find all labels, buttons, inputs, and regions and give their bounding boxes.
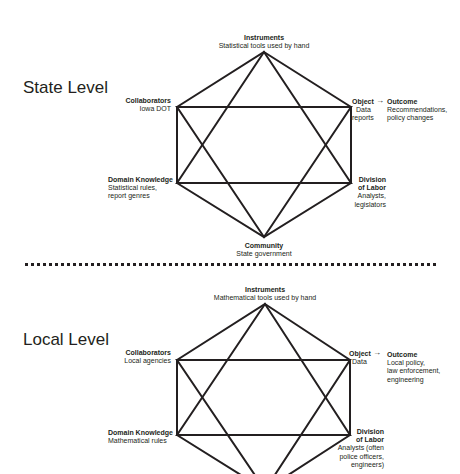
node-desc: reports	[352, 114, 374, 122]
node-desc: Mathematical rules	[108, 437, 173, 445]
node-desc: Statistical rules,	[108, 184, 173, 192]
node-desc: Statistical tools used by hand	[219, 42, 310, 50]
state-community-node: Community State government	[236, 242, 291, 258]
local-collaborators-node: Collaborators Local agencies	[124, 349, 171, 365]
node-desc: police officers,	[338, 453, 384, 461]
node-label: Object	[352, 98, 374, 106]
local-level-hexagram	[177, 304, 350, 474]
node-label: Outcome	[387, 351, 440, 359]
node-desc: Analysts,	[354, 192, 386, 200]
node-label: Division	[338, 428, 384, 436]
node-label: Community	[236, 242, 291, 250]
node-desc: Recommendations,	[387, 106, 447, 114]
node-desc: Data	[349, 358, 371, 366]
state-level-hexagram	[177, 52, 351, 237]
node-label: Instruments	[214, 286, 316, 294]
node-label: Instruments	[219, 34, 310, 42]
node-desc: Data	[352, 106, 374, 114]
node-desc: Local policy,	[387, 359, 440, 367]
node-desc: engineering	[387, 376, 440, 384]
node-label: Collaborators	[124, 349, 171, 357]
node-label: Domain Knowledge	[108, 429, 173, 437]
activity-system-graphs	[0, 0, 460, 474]
state-object-node: Object Data reports	[352, 98, 374, 123]
state-division-of-labor-node: Division of Labor Analysts, legislators	[354, 176, 386, 209]
section-divider	[25, 263, 437, 266]
node-label: Outcome	[387, 98, 447, 106]
local-division-of-labor-node: Division of Labor Analysts (often police…	[338, 428, 384, 469]
node-desc: State government	[236, 250, 291, 258]
state-instruments-node: Instruments Statistical tools used by ha…	[219, 34, 310, 50]
node-desc: Local agencies	[124, 357, 171, 365]
local-object-node: Object Data	[349, 350, 371, 366]
node-desc: engineers)	[338, 461, 384, 469]
local-instruments-node: Instruments Mathematical tools used by h…	[214, 286, 316, 302]
node-desc: legislators	[354, 201, 386, 209]
state-domain-knowledge-node: Domain Knowledge Statistical rules, repo…	[108, 176, 173, 201]
local-arrow-icon: →	[373, 349, 381, 357]
state-arrow-icon: →	[376, 97, 384, 105]
node-label: of Labor	[354, 184, 386, 192]
node-desc: Mathematical tools used by hand	[214, 294, 316, 302]
local-domain-knowledge-node: Domain Knowledge Mathematical rules	[108, 429, 173, 445]
state-collaborators-node: Collaborators Iowa DOT	[125, 97, 171, 113]
node-label: Domain Knowledge	[108, 176, 173, 184]
node-label: Division	[354, 176, 386, 184]
state-outcome-node: Outcome Recommendations, policy changes	[387, 98, 447, 123]
local-level-title: Local Level	[23, 330, 109, 350]
node-desc: report genres	[108, 192, 173, 200]
node-desc: law enforcement,	[387, 367, 440, 375]
node-desc: Analysts (often	[338, 444, 384, 452]
node-label: Collaborators	[125, 97, 171, 105]
state-level-title: State Level	[23, 78, 108, 98]
local-outcome-node: Outcome Local policy, law enforcement, e…	[387, 351, 440, 384]
node-label: of Labor	[338, 436, 384, 444]
node-desc: policy changes	[387, 114, 447, 122]
node-desc: Iowa DOT	[125, 105, 171, 113]
node-label: Object	[349, 350, 371, 358]
